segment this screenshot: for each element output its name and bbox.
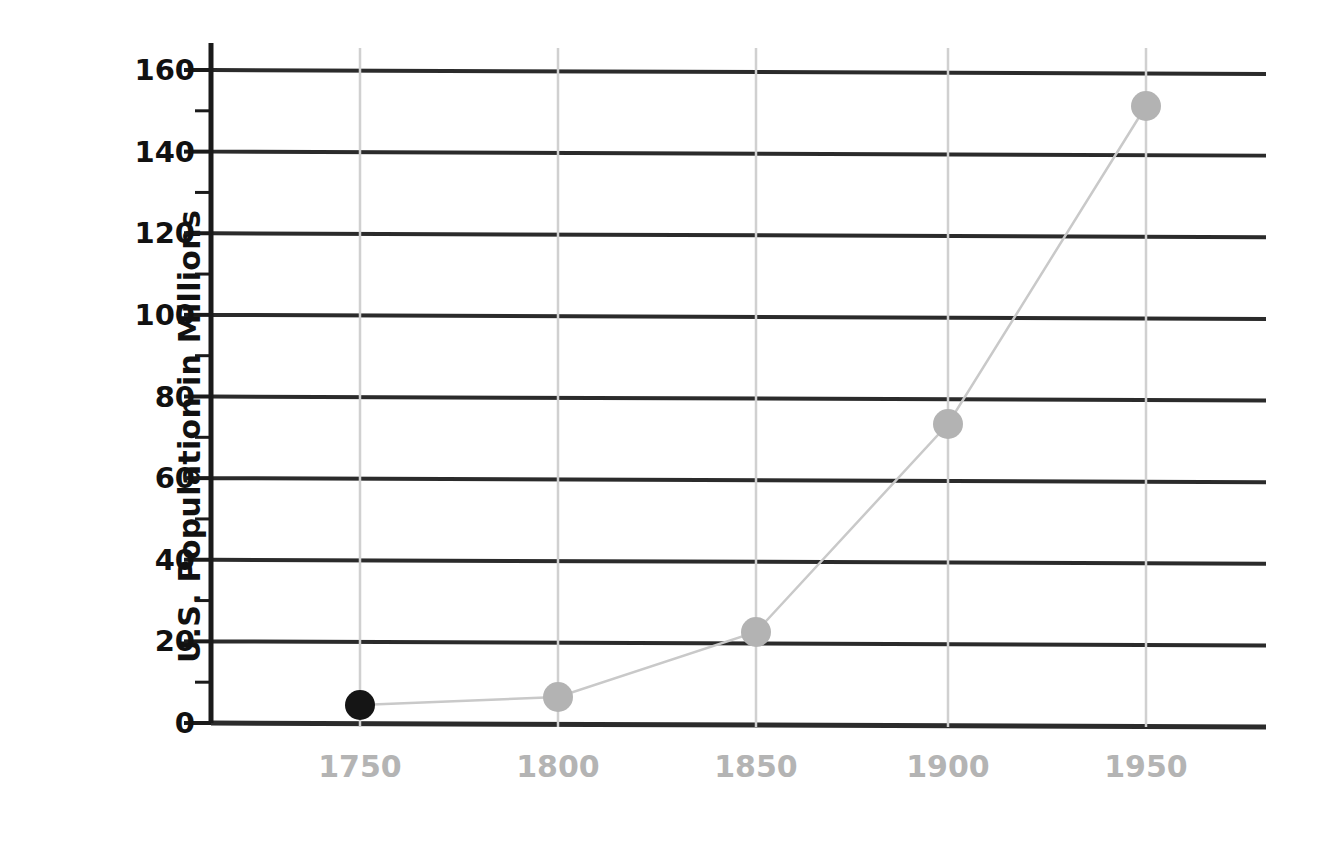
x-axis-tick-labels: 17501800185019001950 <box>0 0 1322 849</box>
chart-container: U.S. Population in Millions 020406080100… <box>0 0 1322 849</box>
x-axis-tick-label: 1800 <box>516 752 600 782</box>
x-axis-tick-label: 1950 <box>1104 752 1188 782</box>
x-axis-tick-label: 1900 <box>906 752 990 782</box>
x-axis-tick-label: 1750 <box>318 752 402 782</box>
x-axis-tick-label: 1850 <box>714 752 798 782</box>
